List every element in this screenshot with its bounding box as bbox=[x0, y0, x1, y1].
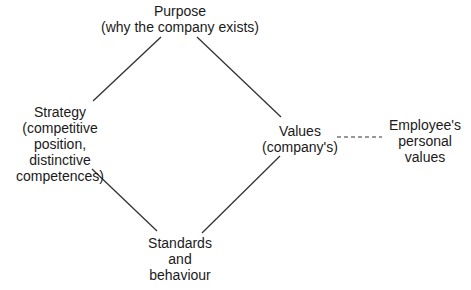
node-strategy: Strategy (competitive position, distinct… bbox=[0, 104, 120, 184]
edge-values-standards bbox=[202, 156, 280, 233]
purpose-subtitle: (why the company exists) bbox=[100, 19, 260, 35]
employee-line-1: Employee's bbox=[380, 117, 470, 133]
standards-line-2: and bbox=[135, 251, 225, 267]
values-title: Values bbox=[255, 123, 345, 139]
node-employee-values: Employee's personal values bbox=[380, 117, 470, 165]
edge-purpose-values bbox=[197, 37, 281, 117]
node-standards: Standards and behaviour bbox=[135, 235, 225, 283]
node-purpose: Purpose (why the company exists) bbox=[100, 3, 260, 35]
strategy-line-2: (competitive bbox=[0, 120, 120, 136]
purpose-title: Purpose bbox=[100, 3, 260, 19]
values-subtitle: (company's) bbox=[255, 139, 345, 155]
strategy-line-4: distinctive bbox=[0, 152, 120, 168]
strategy-line-3: position, bbox=[0, 136, 120, 152]
standards-line-3: behaviour bbox=[135, 267, 225, 283]
edge-purpose-strategy bbox=[93, 37, 161, 101]
node-values: Values (company's) bbox=[255, 123, 345, 155]
standards-line-1: Standards bbox=[135, 235, 225, 251]
strategy-line-5: competences) bbox=[0, 168, 120, 184]
strategy-title: Strategy bbox=[0, 104, 120, 120]
employee-line-2: personal bbox=[380, 133, 470, 149]
employee-line-3: values bbox=[380, 149, 470, 165]
